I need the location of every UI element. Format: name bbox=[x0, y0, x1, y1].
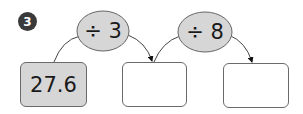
operation-label-1: ÷ 3 bbox=[77, 11, 129, 51]
problem-number-badge: 3 bbox=[18, 12, 37, 31]
operation-label-2: ÷ 8 bbox=[178, 12, 232, 52]
start-value-box: 27.6 bbox=[20, 62, 87, 107]
answer-box-1[interactable] bbox=[122, 62, 187, 107]
answer-box-2[interactable] bbox=[223, 63, 289, 108]
